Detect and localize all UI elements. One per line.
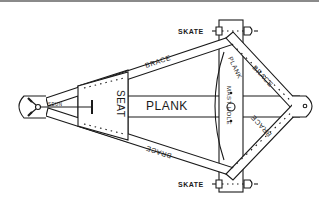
label-skate-top: SKATE [178, 28, 204, 35]
label-plank-main: PLANK [146, 99, 188, 113]
label-seat: SEAT [115, 90, 126, 117]
label-tiller: SEUN [48, 102, 63, 107]
ice-boat-diagram: SKATE SKATE BRACE BRACE BRACE BRACE PLAN… [0, 0, 319, 207]
bow-plate [292, 96, 312, 117]
label-mast-hole: MAST HOLE [226, 86, 232, 125]
label-skate-bottom: SKATE [178, 181, 204, 188]
brace-lower-left [46, 108, 234, 176]
